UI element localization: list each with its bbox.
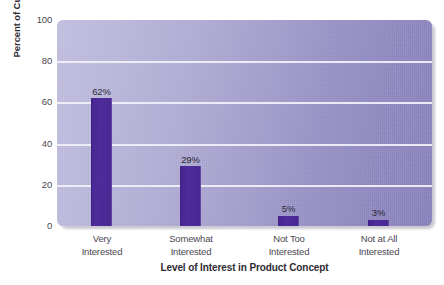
bar-not-at-all-interested[interactable] xyxy=(368,220,389,226)
bar-value-label: 62% xyxy=(76,86,127,97)
x-axis-tick-labels: Very Interested Somewhat Interested Not … xyxy=(57,232,432,262)
y-tick-label: 20 xyxy=(26,180,52,190)
y-axis-tick-labels: 100 80 60 40 20 0 xyxy=(26,14,52,228)
x-tick-line-1: Not at All xyxy=(342,232,416,245)
x-axis-title: Level of Interest in Product Concept xyxy=(57,262,432,274)
x-tick-label-not-too-interested: Not Too Interested xyxy=(252,232,326,258)
bar-not-too-interested[interactable] xyxy=(278,216,299,226)
bar-value-label: 29% xyxy=(165,154,216,165)
bar-value-label: 5% xyxy=(263,203,314,214)
y-tick-label: 40 xyxy=(26,139,52,149)
bar-chart-figure: Percent of Customers 100 80 60 40 20 0 6… xyxy=(0,0,444,285)
bar-value-label: 3% xyxy=(353,207,404,218)
x-tick-line-1: Very xyxy=(65,232,139,245)
x-tick-label-somewhat-interested: Somewhat Interested xyxy=(154,232,228,258)
bar-very-interested[interactable] xyxy=(91,98,112,226)
x-tick-line-2: Interested xyxy=(154,245,228,258)
y-tick-label: 80 xyxy=(26,56,52,66)
x-tick-line-2: Interested xyxy=(342,245,416,258)
x-tick-label-very-interested: Very Interested xyxy=(65,232,139,258)
bar-somewhat-interested[interactable] xyxy=(180,166,201,226)
y-tick-label: 0 xyxy=(26,221,52,231)
y-tick-label: 100 xyxy=(26,15,52,25)
y-tick-label: 60 xyxy=(26,97,52,107)
x-tick-line-2: Interested xyxy=(252,245,326,258)
x-tick-label-not-at-all-interested: Not at All Interested xyxy=(342,232,416,258)
x-tick-line-2: Interested xyxy=(65,245,139,258)
x-tick-line-1: Not Too xyxy=(252,232,326,245)
y-axis-title: Percent of Customers xyxy=(10,0,24,74)
x-tick-line-1: Somewhat xyxy=(154,232,228,245)
bars-layer: 62% 29% 5% 3% xyxy=(57,20,432,226)
